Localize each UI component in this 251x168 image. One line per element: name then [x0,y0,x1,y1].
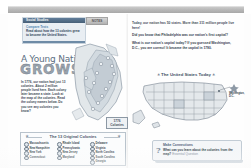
social-studies-callout[interactable]: Social Studies Compare Texts Read about … [22,17,86,44]
list-item[interactable]: Georgia [90,160,122,165]
us-map-title-text: The United States Today [161,72,211,77]
callout-body: Compare Texts Read about how the 13 colo… [23,23,85,39]
make-connections-heading: Make Connections [163,143,193,148]
left-body-text: In 1776, our nation had just 13 colonies… [21,80,68,115]
left-paragraph: In 1776, our nation had just 13 colonies… [21,80,68,113]
thirteen-colonies-map [70,42,128,124]
callout-text: Read about how the 13 colonies grew to b… [26,30,82,37]
colony-marker-icon [90,142,95,147]
colony-marker-icon [57,156,62,161]
star-icon-map-right: ✶ [212,72,215,77]
right-paragraph-2: Did you know that Philadelphia was our n… [132,33,236,38]
box-shadow-bar [155,160,243,163]
scan-top-band [0,0,251,14]
colony-marker-icon [24,156,29,161]
answer-hint-text: Essential Question [172,152,198,156]
right-body-text: Today, our nation has 50 states. More th… [132,21,236,54]
legend-column-2: Rhode Island Pennsylvania New Jersey Mar… [57,142,89,165]
legend-rule-right [104,137,120,138]
star-icon-map-left: ✶ [157,72,160,77]
legend-rule-left [26,137,42,138]
united-states-map: ✶ The United States Today ✶ [130,72,242,134]
colony-marker-icon [90,160,95,165]
map-label-washington-dc: Washington, D.C. [229,92,244,98]
gray-bar [8,6,244,13]
make-connections-question: What can you learn about the colonies fr… [163,148,237,156]
colony-label: Georgia [96,160,106,164]
right-paragraph-3: What is our nation's capital today? If y… [132,41,236,50]
colony-label: Connecticut [30,156,46,160]
legend-columns: Massachusetts New Hampshire New York Con… [24,142,122,165]
colony-label: Maryland [63,156,75,160]
colonies-legend: The 13 Original Colonies ✶ ✶ Massachuset… [20,132,126,166]
list-item[interactable]: Connecticut [24,156,56,161]
right-page: Today, our nation has 50 states. More th… [128,14,244,168]
year-label: Colonies [107,123,127,127]
list-item[interactable]: Maryland [57,156,89,161]
legend-column-1: Massachusetts New Hampshire New York Con… [24,142,56,165]
colony-marker-icon [57,142,62,147]
legend-column-3: Delaware Virginia North Carolina South C… [90,142,122,165]
textbook-spread: Social Studies Compare Texts Read about … [0,0,251,168]
question-mark-icon: ? [156,146,161,154]
colony-marker-icon [24,142,29,147]
year-callout-box: 1776 Colonies [106,117,128,129]
right-paragraph-1: Today, our nation has 50 states. More th… [132,21,236,30]
make-connections-box[interactable]: ? Make Connections What can you learn ab… [152,140,242,161]
left-page: Social Studies Compare Texts Read about … [8,14,126,168]
notes-tab-button[interactable]: NOTES [86,17,108,25]
